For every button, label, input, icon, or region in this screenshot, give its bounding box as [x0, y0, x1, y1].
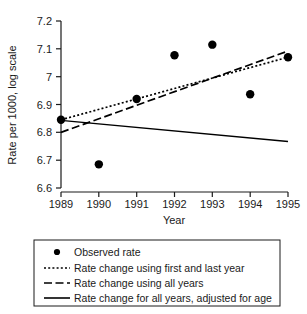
data-point [95, 160, 103, 168]
trend-line-dotted [61, 57, 288, 120]
legend: Observed rate Rate change using first an… [34, 240, 280, 306]
x-tick-label-1994: 1994 [238, 198, 262, 210]
x-tick-label-1989: 1989 [49, 198, 73, 210]
x-tick-label-1992: 1992 [162, 198, 186, 210]
y-tick-label-7: 7 [46, 71, 52, 83]
legend-item-label: Rate change using all years [74, 277, 204, 289]
legend-item-observed-rate: Observed rate [54, 246, 141, 258]
x-tick-label-1995: 1995 [276, 198, 300, 210]
x-axis: 1989 1990 1991 1992 1993 1994 1995 Year [49, 192, 300, 226]
legend-item-adjusted-for-age: Rate change for all years, adjusted for … [44, 292, 272, 304]
legend-item-all-years: Rate change using all years [44, 277, 204, 289]
y-tick-label-7.2: 7.2 [37, 15, 52, 27]
y-tick-label-6.8: 6.8 [37, 126, 52, 138]
chart-figure: Rate per 1000, log scale 7.2 7.1 7 6.9 6… [0, 0, 307, 314]
x-tick-label-1993: 1993 [200, 198, 224, 210]
trend-line-solid [61, 120, 288, 141]
plot-area [57, 40, 292, 168]
trend-line-dashed [61, 51, 288, 132]
x-tick-label-1991: 1991 [124, 198, 148, 210]
data-point [246, 90, 254, 98]
x-axis-title: Year [163, 214, 186, 226]
legend-item-label: Rate change for all years, adjusted for … [74, 292, 272, 304]
legend-item-label: Observed rate [74, 246, 141, 258]
data-point [208, 40, 216, 48]
rate-trend-chart: Rate per 1000, log scale 7.2 7.1 7 6.9 6… [0, 0, 307, 314]
y-tick-label-6.9: 6.9 [37, 99, 52, 111]
filled-circle-icon [54, 249, 60, 255]
y-axis: 7.2 7.1 7 6.9 6.8 6.7 6.6 [37, 15, 61, 194]
legend-item-first-last-year: Rate change using first and last year [44, 262, 245, 274]
data-point [170, 51, 178, 59]
x-tick-label-1990: 1990 [87, 198, 111, 210]
legend-item-label: Rate change using first and last year [74, 262, 245, 274]
y-tick-label-6.7: 6.7 [37, 154, 52, 166]
y-tick-label-7.1: 7.1 [37, 43, 52, 55]
y-tick-label-6.6: 6.6 [37, 182, 52, 194]
y-axis-title: Rate per 1000, log scale [6, 45, 18, 164]
